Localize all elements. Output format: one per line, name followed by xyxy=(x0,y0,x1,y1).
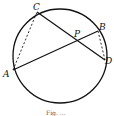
circle xyxy=(13,9,107,103)
chord-ab xyxy=(13,31,98,70)
figure-caption: Fig. ... xyxy=(46,109,66,116)
chord-cd xyxy=(37,12,105,60)
label-p: P xyxy=(73,29,81,39)
label-c: C xyxy=(33,2,40,12)
label-a: A xyxy=(2,69,10,79)
label-b: B xyxy=(98,22,106,32)
chord-diagram: C B P D A Fig. ... xyxy=(0,0,114,116)
label-d: D xyxy=(104,56,112,66)
